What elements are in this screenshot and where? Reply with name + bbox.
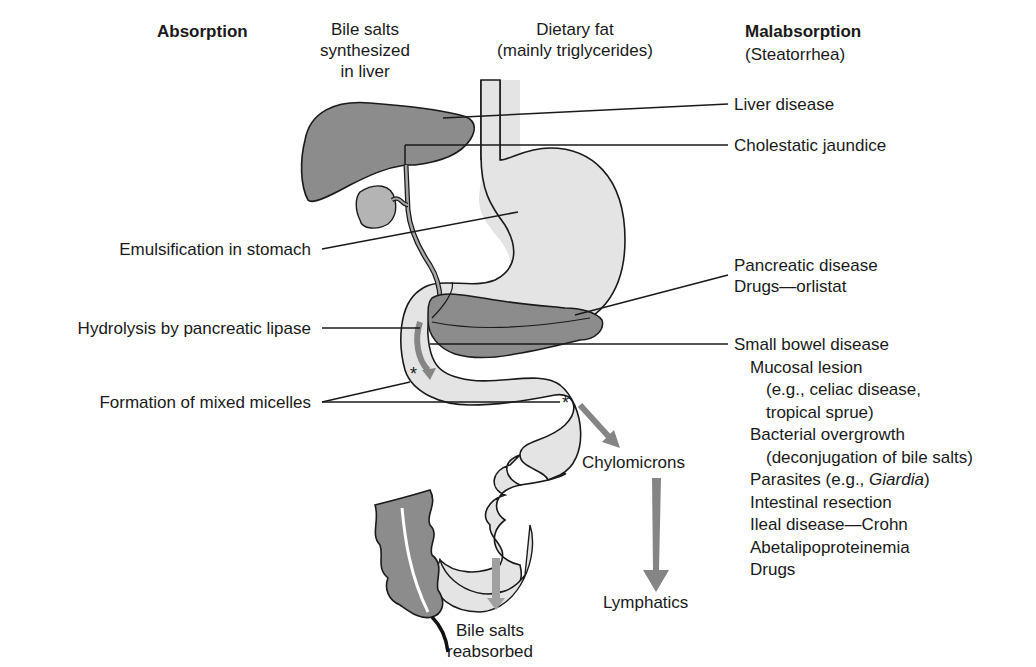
hydrolysis-label: Hydrolysis by pancreatic lipase (0, 318, 311, 339)
steatorrhea-subheader: (Steatorrhea) (745, 44, 845, 65)
pancreatic-disease-label: Pancreatic disease Drugs—orlistat (734, 255, 878, 297)
bile-salts-reabsorbed-label: Bile salts reabsorbed (435, 620, 545, 662)
small-bowel-disease: Small bowel disease (734, 334, 973, 357)
bacterial-overgrowth: Bacterial overgrowth (734, 424, 973, 447)
dietary-fat-label: Dietary fat (mainly triglycerides) (470, 19, 680, 61)
ileal-disease: Ileal disease—Crohn (734, 514, 973, 537)
micelle-marker-2: * (562, 393, 569, 413)
micelle-marker-1: * (410, 364, 417, 384)
micelles-label: Formation of mixed micelles (0, 392, 311, 413)
bile-salts-synthesized-label: Bile salts synthesized in liver (300, 19, 430, 82)
cholestatic-jaundice-label: Cholestatic jaundice (734, 135, 886, 156)
chylomicrons-label: Chylomicrons (582, 452, 685, 473)
leader-micelles-1 (322, 382, 410, 402)
liver-disease-label: Liver disease (734, 94, 834, 115)
lymphatics-label: Lymphatics (603, 592, 688, 613)
drugs: Drugs (734, 559, 973, 582)
small-bowel-disease-list: Small bowel disease Mucosal lesion (e.g.… (734, 334, 973, 582)
absorption-header: Absorption (157, 21, 248, 42)
emulsification-label: Emulsification in stomach (0, 239, 311, 260)
abetalipoproteinemia: Abetalipoproteinemia (734, 537, 973, 560)
gallbladder (356, 186, 395, 228)
small-intestine (440, 455, 521, 596)
parasites: Parasites (e.g., Giardia) (734, 469, 973, 492)
malabsorption-header: Malabsorption (745, 21, 861, 42)
intestinal-resection: Intestinal resection (734, 492, 973, 515)
mucosal-lesion: Mucosal lesion (734, 357, 973, 380)
